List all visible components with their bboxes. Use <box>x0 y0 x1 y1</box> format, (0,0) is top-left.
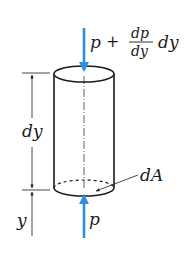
area-label-dA: dA <box>140 165 163 185</box>
top-force-plus: + <box>106 32 119 51</box>
fluid-element-diagram: p + dp dy dy dy dA y p <box>0 0 190 254</box>
top-force-fraction-denominator: dy <box>131 43 149 59</box>
cylinder <box>54 66 114 196</box>
top-force-label: p + dp dy dy <box>90 25 179 59</box>
height-label-dy: dy <box>22 121 43 141</box>
dA-leader-line <box>96 175 138 191</box>
top-force-suffix: dy <box>158 32 179 52</box>
cylinder-bottom-front-edge <box>54 188 114 196</box>
top-force-p: p <box>90 32 101 52</box>
top-force-fraction-numerator: dp <box>131 25 149 41</box>
elevation-label-y: y <box>16 210 27 230</box>
bottom-force-label-p: p <box>89 209 100 229</box>
